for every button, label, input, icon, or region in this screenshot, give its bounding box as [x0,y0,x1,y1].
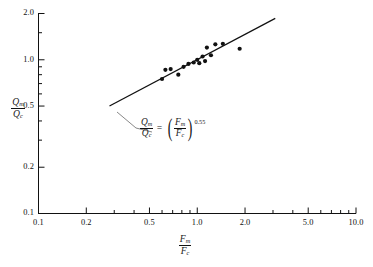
data-point [205,46,209,50]
data-point-group [160,42,242,81]
data-point [160,77,164,81]
x-tick-label: 0.5 [129,218,169,227]
y-tick-label: 0.1 [8,208,34,217]
data-point [197,61,201,65]
x-axis-ticks [39,208,357,214]
y-axis-title: Qm Qc [2,97,34,120]
y-axis-ticks [39,14,45,214]
chart-figure: 0.10.20.51.02.0 0.10.20.51.02.05.010.0 Q… [0,0,373,267]
data-point [181,65,185,69]
equation-rhs-denominator: Fc [174,129,186,139]
y-tick-label: 0.2 [8,162,34,171]
x-tick-label: 10.0 [336,218,373,227]
x-tick-label: 0.1 [19,218,59,227]
equation-rhs-group: ( Fm Fc ) 0.55 [166,118,206,138]
y-tick-label: 2.0 [8,8,34,17]
data-point [169,67,173,71]
data-point [221,42,225,46]
x-tick-label: 5.0 [288,218,328,227]
equation-lhs-fraction: Qm Qc [140,118,153,138]
data-point [186,62,190,66]
data-point [209,53,213,57]
equation-lhs-denominator: Qc [140,129,153,139]
data-point [203,59,207,63]
x-axis-title-fraction: Fm Fc [179,234,191,257]
data-point [238,47,242,51]
y-tick-label: 1.0 [8,55,34,64]
y-axis-title-fraction: Qm Qc [11,97,25,120]
data-point [192,60,196,64]
data-point [213,42,217,46]
equation-equals-sign: = [156,123,162,133]
equation-exponent: 0.55 [194,118,205,125]
data-point [176,73,180,77]
y-axis-title-denominator: Qc [11,109,25,120]
fit-equation-annotation: Qm Qc = ( Fm Fc ) 0.55 [140,118,205,138]
x-axis-title-denominator: Fc [179,246,191,257]
x-tick-label: 0.2 [66,218,106,227]
x-tick-label: 1.0 [177,218,217,227]
data-point [163,68,167,72]
data-point [200,54,204,58]
x-axis-title: Fm Fc [160,234,210,257]
axis-lines [38,13,356,214]
equation-rhs-fraction: Fm Fc [174,118,186,138]
x-tick-label: 2.0 [225,218,265,227]
